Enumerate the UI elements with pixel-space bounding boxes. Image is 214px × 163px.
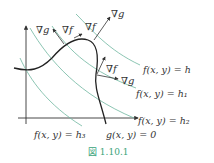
grad-g-label-top-left: ∇g (36, 24, 49, 35)
axes (18, 26, 138, 124)
figure-caption: 図 1.10.1 (88, 147, 129, 157)
grad-f-arrow-top-left (74, 34, 82, 38)
grad-g-label-top: ∇g (111, 8, 124, 19)
level-curve-h2 (30, 28, 134, 118)
constraint-label: g(x, y) = 0 (106, 129, 156, 140)
contour-label-h2: f(x, y) = h₂ (137, 115, 190, 126)
grad-f-label-top: ∇f (85, 21, 98, 32)
grad-f-label-top-left: ∇f (62, 24, 75, 35)
constraint-curve (14, 39, 106, 124)
lagrange-multiplier-diagram: ∇g ∇f ∇f ∇g ∇f ∇g f(x, y) = h f(x, y) = … (0, 0, 214, 163)
contour-label-h3: f(x, y) = h₃ (33, 129, 86, 140)
grad-g-label-right: ∇g (121, 75, 134, 86)
grad-f-arrow-right (97, 57, 105, 74)
grad-f-label-right: ∇f (106, 63, 119, 74)
contour-label-h: f(x, y) = h (142, 64, 191, 75)
level-curve-h3 (20, 58, 82, 126)
grad-g-arrow-top (94, 17, 110, 40)
contour-label-h1: f(x, y) = h₁ (135, 88, 188, 99)
